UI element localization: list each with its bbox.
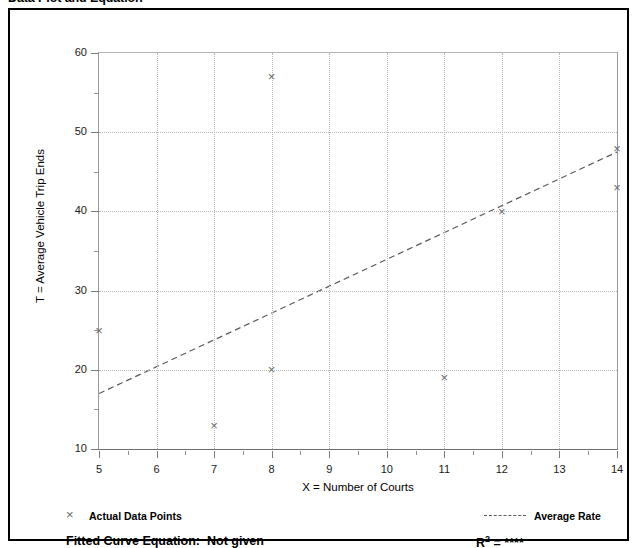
chart-frame: 567891011121314102030405060 T = Average … bbox=[8, 8, 629, 541]
x-tick-label: 13 bbox=[546, 463, 572, 475]
y-tick-minor bbox=[94, 409, 99, 410]
grid-line-vertical bbox=[214, 53, 215, 449]
grid-line-vertical bbox=[387, 53, 388, 449]
x-tick bbox=[387, 451, 388, 458]
x-tick bbox=[272, 451, 273, 458]
x-tick-label: 9 bbox=[316, 463, 342, 475]
legend-line-label: Average Rate bbox=[534, 510, 601, 522]
grid-line-vertical bbox=[157, 53, 158, 449]
x-tick-label: 12 bbox=[489, 463, 515, 475]
x-axis-title: X = Number of Courts bbox=[98, 481, 618, 493]
trend-line bbox=[99, 53, 617, 449]
x-tick-minor bbox=[128, 451, 129, 455]
y-tick bbox=[91, 291, 99, 292]
x-tick-label: 7 bbox=[201, 463, 227, 475]
x-tick-minor bbox=[300, 451, 301, 455]
y-tick-label: 30 bbox=[57, 284, 87, 296]
x-tick-label: 10 bbox=[374, 463, 400, 475]
r2-stars: **** bbox=[504, 536, 523, 548]
grid-line-vertical bbox=[329, 53, 330, 449]
x-tick-label: 11 bbox=[431, 463, 457, 475]
y-tick-minor bbox=[94, 93, 99, 94]
plot-area: 567891011121314102030405060 bbox=[98, 52, 618, 450]
data-point-marker bbox=[95, 326, 104, 335]
y-tick-minor bbox=[94, 251, 99, 252]
grid-line-horizontal bbox=[99, 211, 617, 212]
y-axis-title: T = Average Vehicle Trip Ends bbox=[34, 46, 46, 406]
data-point-marker bbox=[210, 421, 219, 430]
fitted-curve-value: Not given bbox=[207, 534, 264, 548]
r2-equals: = bbox=[490, 536, 504, 548]
dashed-line-icon bbox=[484, 515, 526, 516]
grid-line-vertical bbox=[272, 53, 273, 449]
y-tick-label: 40 bbox=[57, 204, 87, 216]
chart-legend: × Actual Data Points Average Rate bbox=[10, 507, 631, 527]
y-tick bbox=[91, 53, 99, 54]
x-tick-minor bbox=[243, 451, 244, 455]
y-tick bbox=[91, 211, 99, 212]
x-tick-minor bbox=[416, 451, 417, 455]
x-tick bbox=[157, 451, 158, 458]
x-tick-label: 5 bbox=[86, 463, 112, 475]
data-point-marker bbox=[613, 183, 622, 192]
legend-points-label: Actual Data Points bbox=[89, 510, 182, 522]
x-tick-minor bbox=[531, 451, 532, 455]
data-point-marker bbox=[497, 207, 506, 216]
r2-label: R bbox=[476, 536, 485, 548]
grid-line-horizontal bbox=[99, 132, 617, 133]
data-point-marker bbox=[267, 365, 276, 374]
page-title: Data Plot and Equation bbox=[8, 0, 143, 5]
chart-footer: Fitted Curve Equation: Not given R2 = **… bbox=[10, 532, 631, 548]
grid-line-horizontal bbox=[99, 370, 617, 371]
y-tick-label: 60 bbox=[57, 46, 87, 58]
x-tick bbox=[502, 451, 503, 458]
grid-line-horizontal bbox=[99, 291, 617, 292]
y-tick-label: 50 bbox=[57, 125, 87, 137]
x-tick bbox=[617, 451, 618, 458]
x-tick bbox=[559, 451, 560, 458]
x-tick bbox=[214, 451, 215, 458]
data-point-marker bbox=[440, 373, 449, 382]
x-tick-label: 8 bbox=[259, 463, 285, 475]
x-tick-minor bbox=[185, 451, 186, 455]
data-point-marker bbox=[613, 144, 622, 153]
x-tick bbox=[99, 451, 100, 458]
x-tick-label: 6 bbox=[144, 463, 170, 475]
x-tick bbox=[444, 451, 445, 458]
grid-line-vertical bbox=[502, 53, 503, 449]
x-tick-minor bbox=[588, 451, 589, 455]
x-tick-label: 14 bbox=[604, 463, 630, 475]
grid-line-vertical bbox=[559, 53, 560, 449]
y-tick-label: 20 bbox=[57, 363, 87, 375]
y-tick bbox=[91, 370, 99, 371]
x-tick-minor bbox=[358, 451, 359, 455]
fitted-curve-label: Fitted Curve Equation: bbox=[66, 534, 200, 548]
y-tick-label: 10 bbox=[57, 442, 87, 454]
x-marker-icon: × bbox=[66, 509, 74, 521]
grid-line-vertical bbox=[444, 53, 445, 449]
y-tick bbox=[91, 132, 99, 133]
r-squared-value: R2 = **** bbox=[476, 534, 524, 548]
y-tick bbox=[91, 449, 99, 450]
y-tick-minor bbox=[94, 172, 99, 173]
x-tick bbox=[329, 451, 330, 458]
x-tick-minor bbox=[473, 451, 474, 455]
fitted-curve-equation: Fitted Curve Equation: Not given bbox=[66, 534, 264, 548]
data-point-marker bbox=[267, 72, 276, 81]
